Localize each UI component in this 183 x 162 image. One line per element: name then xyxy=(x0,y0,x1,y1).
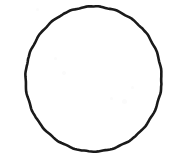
figure-canvas xyxy=(0,0,183,162)
circle-outline-drawing xyxy=(0,0,183,162)
figure-background xyxy=(0,0,183,162)
